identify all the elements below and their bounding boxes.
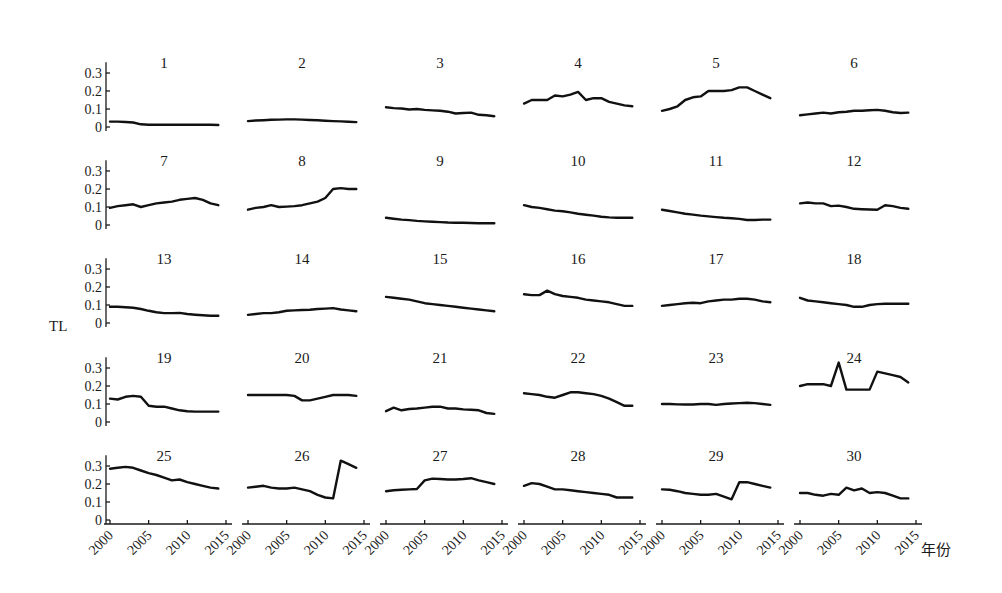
panel-23: 23 bbox=[662, 350, 770, 405]
x-tick-label: 2000 bbox=[224, 528, 254, 558]
x-tick-label: 2000 bbox=[362, 528, 392, 558]
chart-canvas: 100.10.20.323456700.10.20.3891011121300.… bbox=[0, 0, 1002, 593]
panel-title: 21 bbox=[433, 350, 448, 366]
y-tick-label: 0.2 bbox=[85, 280, 103, 295]
panel-title: 26 bbox=[295, 448, 311, 464]
panel-13: 1300.10.20.3 bbox=[85, 251, 219, 331]
panel-title: 22 bbox=[571, 350, 586, 366]
panel-22: 22 bbox=[524, 350, 632, 406]
series-line bbox=[110, 198, 218, 208]
panel-29: 292000200520102015 bbox=[638, 448, 784, 558]
panel-title: 2 bbox=[298, 55, 306, 71]
panel-28: 282000200520102015 bbox=[500, 448, 646, 558]
panel-6: 6 bbox=[800, 55, 908, 115]
y-tick-label: 0.3 bbox=[85, 262, 103, 277]
series-line bbox=[662, 210, 770, 220]
panel-title: 27 bbox=[433, 448, 449, 464]
series-line bbox=[248, 119, 356, 122]
panel-9: 9 bbox=[386, 153, 494, 223]
x-tick-label: 2000 bbox=[638, 528, 668, 558]
series-line bbox=[800, 203, 908, 210]
x-tick-label: 2010 bbox=[715, 528, 745, 558]
panel-title: 7 bbox=[160, 153, 168, 169]
panel-title: 11 bbox=[709, 153, 723, 169]
y-tick-label: 0 bbox=[95, 218, 102, 233]
y-axis-label: TL bbox=[49, 318, 67, 334]
panel-title: 1 bbox=[160, 55, 168, 71]
series-line bbox=[110, 122, 218, 125]
series-line bbox=[110, 396, 218, 412]
panel-title: 8 bbox=[298, 153, 306, 169]
panel-15: 15 bbox=[386, 251, 494, 311]
y-tick-label: 0.1 bbox=[85, 495, 103, 510]
series-line bbox=[800, 488, 908, 499]
panel-3: 3 bbox=[386, 55, 494, 116]
panel-title: 14 bbox=[295, 251, 311, 267]
panel-title: 12 bbox=[847, 153, 862, 169]
series-line bbox=[524, 392, 632, 406]
series-line bbox=[662, 87, 770, 110]
x-tick-label: 2000 bbox=[500, 528, 530, 558]
y-tick-label: 0.3 bbox=[85, 361, 103, 376]
y-tick-label: 0 bbox=[95, 120, 102, 135]
series-line bbox=[110, 467, 218, 489]
panel-4: 4 bbox=[524, 55, 632, 106]
panel-title: 4 bbox=[574, 55, 582, 71]
x-tick-label: 2005 bbox=[814, 528, 844, 558]
x-tick-label: 2005 bbox=[124, 528, 154, 558]
panel-title: 29 bbox=[709, 448, 724, 464]
y-tick-label: 0.1 bbox=[85, 298, 103, 313]
panel-title: 23 bbox=[709, 350, 724, 366]
series-line bbox=[524, 92, 632, 106]
panel-16: 16 bbox=[524, 251, 632, 306]
panel-14: 14 bbox=[248, 251, 356, 315]
panel-26: 262000200520102015 bbox=[224, 448, 370, 558]
series-line bbox=[110, 307, 218, 316]
y-tick-label: 0.2 bbox=[85, 84, 103, 99]
y-tick-label: 0.1 bbox=[85, 200, 103, 215]
panel-12: 12 bbox=[800, 153, 908, 210]
y-tick-label: 0 bbox=[95, 415, 102, 430]
panel-title: 6 bbox=[850, 55, 858, 71]
series-line bbox=[386, 478, 494, 491]
panel-title: 18 bbox=[847, 251, 862, 267]
series-line bbox=[800, 298, 908, 307]
panel-2: 2 bbox=[248, 55, 356, 122]
panel-7: 700.10.20.3 bbox=[85, 153, 219, 233]
x-tick-label: 2005 bbox=[676, 528, 706, 558]
panel-title: 5 bbox=[712, 55, 720, 71]
panel-17: 17 bbox=[662, 251, 770, 306]
panel-title: 17 bbox=[709, 251, 725, 267]
panel-5: 5 bbox=[662, 55, 770, 111]
panel-title: 3 bbox=[436, 55, 444, 71]
series-line bbox=[800, 363, 908, 390]
x-tick-label: 2010 bbox=[301, 528, 331, 558]
panel-30: 302000200520102015 bbox=[776, 448, 922, 558]
panel-11: 11 bbox=[662, 153, 770, 220]
series-line bbox=[524, 205, 632, 218]
series-line bbox=[386, 297, 494, 311]
series-line bbox=[662, 299, 770, 306]
series-line bbox=[248, 188, 356, 210]
series-line bbox=[248, 395, 356, 400]
panel-27: 272000200520102015 bbox=[362, 448, 508, 558]
panel-title: 28 bbox=[571, 448, 586, 464]
series-line bbox=[386, 107, 494, 116]
x-tick-label: 2010 bbox=[439, 528, 469, 558]
y-tick-label: 0.2 bbox=[85, 379, 103, 394]
series-line bbox=[662, 482, 770, 499]
series-line bbox=[662, 403, 770, 405]
panel-title: 10 bbox=[571, 153, 586, 169]
panel-title: 20 bbox=[295, 350, 310, 366]
x-tick-label: 2005 bbox=[538, 528, 568, 558]
x-tick-label: 2010 bbox=[577, 528, 607, 558]
panel-18: 18 bbox=[800, 251, 908, 307]
x-tick-label: 2000 bbox=[86, 528, 116, 558]
x-tick-label: 2005 bbox=[400, 528, 430, 558]
panel-title: 9 bbox=[436, 153, 444, 169]
panel-19: 1900.10.20.3 bbox=[85, 350, 219, 430]
panel-10: 10 bbox=[524, 153, 632, 218]
x-axis-label: 年份 bbox=[921, 542, 951, 558]
panel-20: 20 bbox=[248, 350, 356, 400]
panel-25: 2500.10.20.32000200520102015 bbox=[85, 448, 233, 558]
